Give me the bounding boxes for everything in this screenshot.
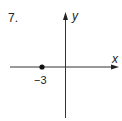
y-axis-arrow-icon	[63, 12, 68, 20]
point-marker	[39, 64, 44, 69]
coordinate-axes	[0, 0, 122, 121]
x-axis-label: x	[112, 53, 118, 65]
point-label: −3	[34, 75, 47, 86]
problem-number: 7.	[8, 12, 18, 24]
y-axis-label: y	[72, 10, 78, 22]
